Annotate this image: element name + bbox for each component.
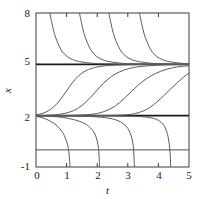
- x-tick-label-1: 1: [61, 170, 73, 181]
- x-tick-label-5: 5: [183, 170, 195, 181]
- y-tick-label-minus-1: -1: [8, 161, 30, 172]
- y-tick-label-2: 2: [12, 112, 30, 123]
- x-tick-label-2: 2: [92, 170, 104, 181]
- plot-frame: [36, 13, 189, 167]
- y-axis-title: x: [2, 85, 13, 97]
- x-tick-label-0: 0: [31, 170, 43, 181]
- ode-solution-curves-chart: 8 5 2 -1 0 1 2 3 4 5 t x: [0, 0, 201, 199]
- x-tick-label-4: 4: [153, 170, 165, 181]
- y-tick-label-5: 5: [12, 56, 30, 67]
- x-tick-label-3: 3: [122, 170, 134, 181]
- plot-border: [36, 13, 189, 167]
- y-tick-label-8: 8: [12, 8, 30, 19]
- x-axis-title: t: [106, 185, 109, 196]
